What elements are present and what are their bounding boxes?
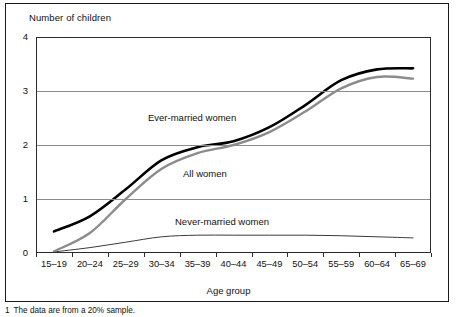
x-tick — [144, 253, 145, 257]
y-axis-title: Number of children — [29, 12, 111, 23]
x-tick — [431, 253, 432, 257]
x-tick — [36, 253, 37, 257]
x-tick-label: 15–19 — [34, 259, 74, 269]
x-tick-label: 40–44 — [214, 259, 254, 269]
footnote: 1The data are from a 20% sample. — [5, 306, 135, 315]
x-tick-label: 60–64 — [357, 259, 397, 269]
y-tick-label: 4 — [8, 31, 28, 42]
y-tick-label: 3 — [8, 85, 28, 96]
x-tick-label: 55–59 — [321, 259, 361, 269]
y-tick-label: 1 — [8, 193, 28, 204]
series-label-ever-married: Ever-married women — [148, 112, 236, 123]
footnote-text: The data are from a 20% sample. — [14, 306, 136, 315]
y-tick-label: 0 — [8, 247, 28, 258]
x-tick-label: 30–34 — [142, 259, 182, 269]
x-tick — [395, 253, 396, 257]
figure: Number of children 01234 15–1920–2425–29… — [0, 0, 457, 317]
x-tick-label: 20–24 — [70, 259, 110, 269]
x-tick-label: 25–29 — [106, 259, 146, 269]
x-tick — [108, 253, 109, 257]
x-axis-title: Age group — [0, 285, 457, 296]
y-tick-label: 2 — [8, 139, 28, 150]
x-tick — [72, 253, 73, 257]
x-tick — [323, 253, 324, 257]
footnote-marker: 1 — [5, 306, 10, 315]
series-label-all-women: All women — [183, 168, 227, 179]
x-tick-label: 45–49 — [249, 259, 289, 269]
x-tick-label: 65–69 — [393, 259, 433, 269]
x-tick — [216, 253, 217, 257]
x-tick — [287, 253, 288, 257]
x-tick-label: 35–39 — [178, 259, 218, 269]
x-tick-label: 50–54 — [285, 259, 325, 269]
series-label-never-married: Never-married women — [175, 216, 269, 227]
x-tick — [180, 253, 181, 257]
x-tick — [359, 253, 360, 257]
x-tick — [252, 253, 253, 257]
